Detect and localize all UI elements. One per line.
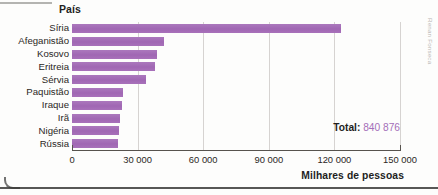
page-edge-bottom — [0, 187, 438, 189]
horizontal-bar-chart: País SíriaAfeganistãoKosovoEritreiaSérvi… — [0, 0, 438, 195]
chart-page: País SíriaAfeganistãoKosovoEritreiaSérvi… — [0, 0, 438, 195]
bar-row — [72, 75, 146, 84]
value-axis-title: Milhares de pessoas — [301, 170, 404, 181]
bar — [72, 114, 120, 123]
bar-row — [72, 88, 123, 97]
bar — [72, 75, 146, 84]
gridline — [203, 22, 204, 150]
axis-end-tick — [72, 145, 73, 151]
bar — [72, 24, 341, 33]
bar-row — [72, 126, 119, 135]
category-label: Irã — [1, 113, 69, 123]
total-annotation: Total: 840 876 — [333, 122, 400, 133]
bar — [72, 62, 155, 71]
x-tick-label: 30 000 — [123, 154, 152, 165]
bar-row — [72, 37, 164, 46]
bar — [72, 139, 118, 148]
bar — [72, 37, 164, 46]
x-tick-label: 150 000 — [383, 154, 417, 165]
category-axis-title: País — [59, 3, 81, 15]
axis-end-tick — [400, 145, 401, 151]
total-label: Total: — [333, 122, 360, 133]
category-label: Rússia — [1, 139, 69, 149]
bar — [72, 101, 122, 110]
bar-row — [72, 24, 341, 33]
bar-row — [72, 139, 118, 148]
gridline — [400, 22, 401, 150]
category-label: Paquistão — [1, 87, 69, 97]
total-value: 840 876 — [363, 122, 400, 133]
x-tick-label: 90 000 — [254, 154, 283, 165]
category-label: Iraque — [1, 100, 69, 110]
x-tick-label: 120 000 — [317, 154, 351, 165]
x-tick-label: 60 000 — [189, 154, 218, 165]
category-label: Kosovo — [1, 49, 69, 59]
category-label: Síria — [1, 23, 69, 33]
category-label: Afeganistão — [1, 36, 69, 46]
bar-row — [72, 50, 157, 59]
x-tick-label: 0 — [69, 154, 74, 165]
bar-row — [72, 101, 122, 110]
category-label: Eritreia — [1, 62, 69, 72]
bar — [72, 88, 123, 97]
x-axis-line — [72, 150, 401, 151]
bar — [72, 126, 119, 135]
category-label: Nigéria — [1, 126, 69, 136]
source-credit: Renan Fonseca — [427, 18, 434, 64]
category-axis-labels: SíriaAfeganistãoKosovoEritreiaSérviaPaqu… — [0, 22, 69, 150]
bar-row — [72, 114, 120, 123]
category-label: Sérvia — [1, 75, 69, 85]
gridline — [269, 22, 270, 150]
bar-row — [72, 62, 155, 71]
bar — [72, 50, 157, 59]
